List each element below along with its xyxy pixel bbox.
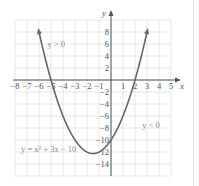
x-tick-label: −6: [34, 81, 43, 91]
y-tick-label: −8: [100, 123, 109, 133]
y-axis-label: y: [101, 8, 106, 18]
parabola-chart: −8−7−6−5−4−3−2−1123458642−2−4−6−8−10−12−…: [0, 0, 199, 186]
x-axis-label: x: [179, 81, 184, 91]
curve-arrow-icon: [37, 28, 42, 34]
x-tick-label: 3: [145, 81, 149, 91]
x-tick-label: 5: [169, 81, 173, 91]
y-axis-arrow-icon: [109, 10, 114, 16]
y-tick-label: −2: [100, 87, 109, 97]
y-tick-label: 2: [105, 63, 109, 73]
x-tick-label: −7: [22, 81, 31, 91]
x-tick-label: −8: [10, 81, 19, 91]
y-tick-label: 8: [105, 27, 109, 37]
x-tick-label: 1: [121, 81, 125, 91]
annotation-equation: y = x² + 3x − 10: [21, 144, 76, 154]
x-tick-label: −3: [70, 81, 79, 91]
annotation-positive: y > 0: [47, 39, 65, 49]
parabola-curve: [39, 32, 147, 154]
y-tick-label: −14: [96, 159, 110, 169]
x-tick-label: −2: [82, 81, 91, 91]
x-tick-label: 4: [157, 81, 162, 91]
annotation-negative: y < 0: [142, 120, 160, 130]
y-tick-label: −10: [96, 135, 109, 145]
curve-arrow-icon: [144, 28, 149, 34]
y-tick-label: 6: [105, 39, 109, 49]
y-tick-label: −4: [100, 99, 110, 109]
y-tick-label: −6: [100, 111, 109, 121]
x-tick-label: −4: [58, 81, 68, 91]
